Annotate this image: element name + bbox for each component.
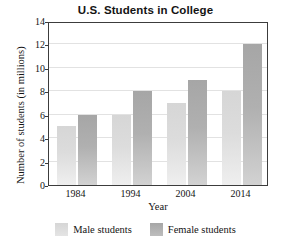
legend-label: Male students bbox=[73, 224, 132, 235]
y-axis-tick-label: 2 bbox=[29, 158, 45, 168]
y-axis-tick-mark bbox=[45, 139, 48, 140]
bar-male-2004 bbox=[167, 103, 186, 185]
y-axis-tick-mark bbox=[45, 22, 48, 23]
y-axis-tick-label: 4 bbox=[29, 134, 45, 144]
bar-male-1994 bbox=[112, 115, 131, 185]
y-axis-tick-label: 14 bbox=[29, 17, 45, 27]
gridline bbox=[49, 43, 267, 44]
y-axis-tick-mark bbox=[45, 186, 48, 187]
male-swatch bbox=[55, 223, 68, 236]
x-axis-tick-label: 1984 bbox=[51, 188, 101, 199]
bar-female-2004 bbox=[188, 80, 207, 185]
plot-area bbox=[48, 22, 268, 186]
x-axis-tick-label: 2014 bbox=[216, 188, 266, 199]
y-axis-tick-mark bbox=[45, 163, 48, 164]
y-axis-tick-label: 8 bbox=[29, 87, 45, 97]
legend-item-male: Male students bbox=[55, 223, 132, 236]
y-axis-tick-mark bbox=[45, 116, 48, 117]
y-axis-tick-label: 6 bbox=[29, 111, 45, 121]
x-axis-title: Year bbox=[48, 201, 268, 212]
bar-chart-figure: U.S. Students in College Number of stude… bbox=[0, 0, 291, 249]
y-axis-tick-label: 12 bbox=[29, 40, 45, 50]
x-axis-tick-label: 2004 bbox=[161, 188, 211, 199]
female-swatch bbox=[150, 223, 163, 236]
bar-male-1984 bbox=[57, 126, 76, 185]
y-axis-tick-mark bbox=[45, 45, 48, 46]
bar-male-2014 bbox=[222, 91, 241, 185]
y-axis-tick-label: 0 bbox=[29, 181, 45, 191]
y-axis-title-wrap: Number of students (in millions) bbox=[2, 22, 18, 186]
bar-female-1984 bbox=[78, 115, 97, 185]
y-axis-tick-mark bbox=[45, 92, 48, 93]
chart-legend: Male studentsFemale students bbox=[0, 223, 291, 236]
y-axis-title: Number of students (in millions) bbox=[15, 46, 26, 184]
y-axis-tick-labels: 02468101214 bbox=[28, 22, 45, 186]
y-axis-tick-label: 10 bbox=[29, 64, 45, 74]
legend-item-female: Female students bbox=[150, 223, 236, 236]
y-axis-tick-mark bbox=[45, 69, 48, 70]
x-axis-tick-label: 1994 bbox=[106, 188, 156, 199]
gridline bbox=[49, 67, 267, 68]
chart-title: U.S. Students in College bbox=[0, 4, 291, 16]
bar-female-2014 bbox=[243, 44, 262, 185]
bar-female-1994 bbox=[133, 91, 152, 185]
legend-label: Female students bbox=[168, 224, 236, 235]
